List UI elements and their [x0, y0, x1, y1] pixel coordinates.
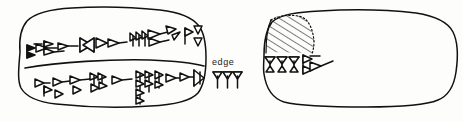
- sign-r1-vertical-wedge-1: [265, 57, 275, 72]
- sign-l2-vertical-wedge-6: [155, 71, 163, 88]
- sign-l2-double-wedge-cluster: [90, 73, 107, 92]
- sign-l2-vertical-wedge-4: [55, 90, 63, 98]
- edge-vertical-wedge-1: [213, 72, 222, 88]
- sign-l2-stacked-wedge-column-2: [145, 71, 153, 92]
- sign-l2-vertical-wedge-1: [35, 79, 50, 87]
- tablet-drawing-figure: edge: [0, 0, 462, 122]
- sign-l2-vertical-wedge-3: [53, 78, 70, 86]
- sign-l2-horizontal-wedge-1: [70, 76, 90, 84]
- sign-r1-horizontal-wedge-with-triangle: [303, 55, 333, 74]
- left-tablet-line-2-signs: [35, 70, 204, 104]
- sign-vertical-wedge-3: [185, 28, 193, 44]
- left-tablet-line-1-signs: [27, 26, 202, 58]
- edge-annotation-label: edge: [212, 58, 234, 67]
- sign-l2-stacked-wedge-column-1: [136, 71, 144, 104]
- left-tablet-ruling-line: [25, 60, 204, 68]
- edge-wedge-group: [213, 72, 242, 88]
- sign-three-vertical-wedges: [130, 31, 148, 46]
- broken-surface-hatching: [260, 10, 322, 62]
- edge-vertical-wedge-2: [223, 72, 232, 88]
- edge-vertical-wedge-3: [233, 72, 242, 88]
- right-tablet-line-1-signs: [265, 55, 333, 74]
- sign-stacked-triangles: [194, 26, 202, 46]
- sign-l2-vertical-wedge-2: [44, 86, 52, 96]
- sign-angled-wedge: [166, 26, 180, 40]
- sign-vertical-wedge-2: [108, 39, 127, 47]
- sign-r1-vertical-wedge-2: [277, 57, 287, 72]
- sign-l2-vertical-wedge-5: [73, 86, 81, 94]
- sign-l2-horizontal-wedge-2: [112, 76, 132, 84]
- sign-r1-vertical-wedge-3: [289, 57, 299, 72]
- sign-crossed-wedges: [80, 38, 94, 52]
- sign-horizontal-wedge-2: [58, 43, 78, 50]
- sign-l2-horizontal-wedge-4: [180, 73, 195, 81]
